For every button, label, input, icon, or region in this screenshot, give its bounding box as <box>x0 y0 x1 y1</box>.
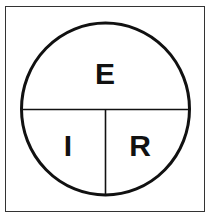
label-r: R <box>129 129 151 162</box>
label-e: E <box>95 57 115 90</box>
label-i: I <box>64 129 72 162</box>
ohms-law-diagram: E I R <box>0 0 212 216</box>
